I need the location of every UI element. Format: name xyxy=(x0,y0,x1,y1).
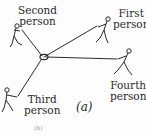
rope-second xyxy=(22,30,42,56)
first-person-figure xyxy=(96,17,110,43)
fourth-person-figure xyxy=(114,49,132,75)
rope-first xyxy=(44,26,97,57)
label-line: person xyxy=(110,91,146,102)
rope-third xyxy=(18,60,41,96)
label-line: person xyxy=(24,105,60,116)
label-line: person xyxy=(113,19,146,30)
second-person-figure xyxy=(10,24,22,47)
figure-caption: (a) xyxy=(76,100,93,114)
third-person-label: Third person xyxy=(24,94,60,116)
first-person-label: First person xyxy=(113,8,146,30)
second-person-label: Second person xyxy=(18,5,57,27)
rope-fourth xyxy=(46,57,117,59)
tug-of-war-diagram: Second person First person Fourth person… xyxy=(0,0,146,137)
fourth-person-label: Fourth person xyxy=(110,80,146,102)
third-person-figure xyxy=(2,88,17,112)
label-line: person xyxy=(18,16,57,27)
faint-mark: (b) xyxy=(34,124,43,131)
